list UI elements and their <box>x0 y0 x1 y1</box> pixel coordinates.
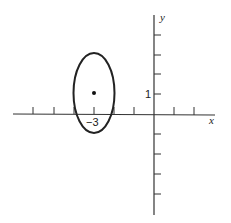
coordinate-plane: y x −3 1 <box>0 0 231 223</box>
x-tick-label-neg3: −3 <box>86 116 99 128</box>
y-axis-label: y <box>159 11 165 23</box>
x-axis-label: x <box>208 114 214 126</box>
ellipse-center-point <box>92 91 96 95</box>
y-tick-label-1: 1 <box>145 88 151 100</box>
x-axis <box>13 114 215 115</box>
